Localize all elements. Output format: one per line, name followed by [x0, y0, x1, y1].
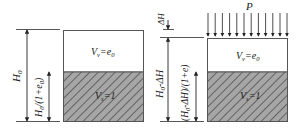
solid-height-label: H0/(1+e0)	[33, 77, 45, 118]
delta-h-label: ΔH	[156, 13, 166, 26]
reduced-height-label: H0-ΔH	[154, 68, 167, 99]
loaded-state-diagram: ΔH H0-ΔH (H0-ΔH)/(1+e) P Vv=e0 Vs=1	[154, 0, 288, 122]
reduced-solid-height-label: (H0-ΔH)/(1+e)	[180, 65, 191, 121]
solid-volume-label: Vs=1	[240, 90, 260, 102]
initial-state-diagram: H0 H0/(1+e0) Vv=e0 Vs=1	[10, 30, 144, 122]
h0-label: H0	[10, 70, 24, 83]
load-arrows	[208, 13, 287, 36]
load-p-label: P	[245, 0, 253, 12]
consolidation-diagram: H0 H0/(1+e0) Vv=e0 Vs=1 ΔH H0-ΔH (H0-ΔH)…	[0, 0, 298, 132]
solid-volume-label: Vs=1	[95, 90, 115, 102]
